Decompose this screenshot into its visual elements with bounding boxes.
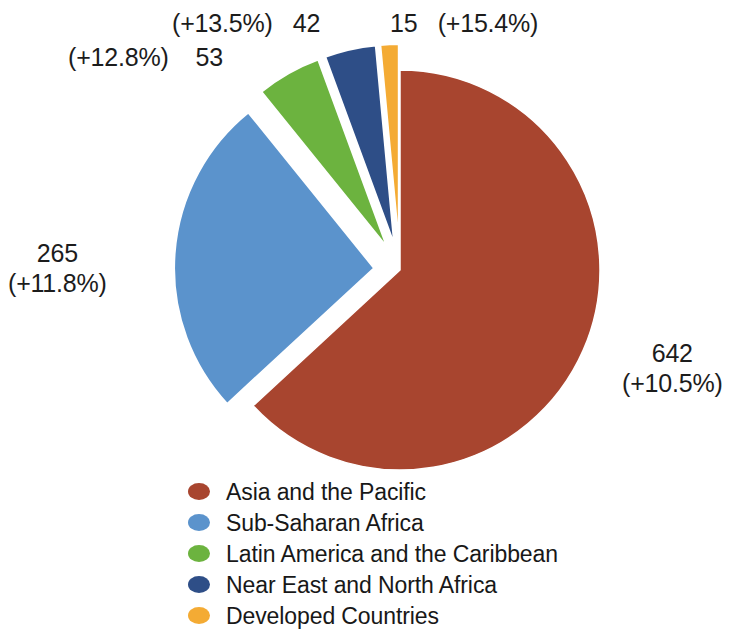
legend-item-label: Developed Countries xyxy=(226,603,439,629)
slice-change-developed-countries: (+15.4%) xyxy=(438,9,539,37)
slice-value-sub-saharan-africa: 265 xyxy=(8,238,107,268)
slice-value-developed-countries: 15 xyxy=(390,9,417,37)
slice-label-near-east: (+13.5%) 42 xyxy=(172,8,320,38)
slice-value-latin-america: 53 xyxy=(196,43,223,71)
legend-item-label: Sub-Saharan Africa xyxy=(226,510,424,536)
slice-value-asia-pacific: 642 xyxy=(622,338,723,368)
legend-item[interactable]: Sub-Saharan Africa xyxy=(188,507,688,538)
slice-label-developed-countries: 15 (+15.4%) xyxy=(390,8,538,38)
legend-swatch-icon xyxy=(188,607,210,624)
legend-item-label: Latin America and the Caribbean xyxy=(226,541,558,567)
legend-item[interactable]: Latin America and the Caribbean xyxy=(188,538,688,569)
slice-label-asia-pacific: 642 (+10.5%) xyxy=(622,338,723,398)
legend-item[interactable]: Developed Countries xyxy=(188,600,688,631)
legend-item-label: Near East and North Africa xyxy=(226,572,497,598)
legend-item[interactable]: Near East and North Africa xyxy=(188,569,688,600)
slice-label-sub-saharan-africa: 265 (+11.8%) xyxy=(8,238,107,298)
legend-item-label: Asia and the Pacific xyxy=(226,479,426,505)
legend-swatch-icon xyxy=(188,545,210,562)
pie-chart-figure: (+12.8%) 53 (+13.5%) 42 15 (+15.4%) 642 … xyxy=(0,0,751,636)
chart-legend: Asia and the PacificSub-Saharan AfricaLa… xyxy=(188,476,688,631)
slice-change-sub-saharan-africa: (+11.8%) xyxy=(8,268,107,298)
legend-swatch-icon xyxy=(188,576,210,593)
legend-swatch-icon xyxy=(188,514,210,531)
slice-change-latin-america: (+12.8%) xyxy=(68,43,169,71)
slice-change-near-east: (+13.5%) xyxy=(172,9,273,37)
legend-swatch-icon xyxy=(188,483,210,500)
legend-item[interactable]: Asia and the Pacific xyxy=(188,476,688,507)
slice-label-latin-america: (+12.8%) 53 xyxy=(68,42,223,72)
slice-change-asia-pacific: (+10.5%) xyxy=(622,368,723,398)
slice-value-near-east: 42 xyxy=(293,9,320,37)
